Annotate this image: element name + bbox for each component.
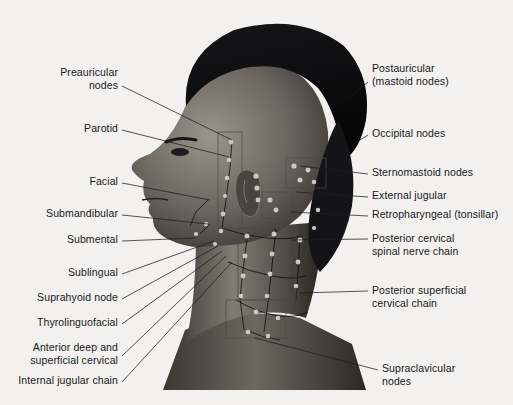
label-line: Retropharyngeal (tonsillar) [372,208,498,221]
label-anterior-deep-superficial-cervical: Anterior deep andsuperficial cervical [0,341,118,366]
label-line: Submandibular [0,207,118,220]
label-supraclavicular-nodes: Supraclavicularnodes [382,362,455,387]
label-line: Posterior cervical [372,232,458,245]
label-line: Submental [0,233,118,246]
label-facial: Facial [0,175,118,188]
label-postauricular-mastoid-nodes: Postauricular(mastoid nodes) [372,62,449,87]
label-line: Suprahyoid node [0,291,118,304]
label-line: Preauricular [0,66,118,79]
label-line: nodes [382,375,455,388]
label-thyrolinguofacial: Thyrolinguofacial [0,316,118,329]
label-line: cervical chain [372,297,466,310]
head-profile-photograph [132,24,367,390]
label-retropharyngeal-tonsillar: Retropharyngeal (tonsillar) [372,208,498,221]
label-sternomastoid-nodes: Sternomastoid nodes [372,166,473,179]
label-occipital-nodes: Occipital nodes [372,127,445,140]
label-submandibular: Submandibular [0,207,118,220]
label-line: Postauricular [372,62,449,75]
label-line: Internal jugular chain [0,374,118,387]
label-line: Supraclavicular [382,362,455,375]
label-line: Anterior deep and [0,341,118,354]
label-posterior-cervical-spinal-nerve-chain: Posterior cervicalspinal nerve chain [372,232,458,257]
label-internal-jugular-chain: Internal jugular chain [0,374,118,387]
label-posterior-superficial-cervical-chain: Posterior superficialcervical chain [372,284,466,309]
label-line: Parotid [0,122,118,135]
label-line: superficial cervical [0,354,118,367]
label-submental: Submental [0,233,118,246]
label-preauricular-nodes: Preauricularnodes [0,66,118,91]
label-line: Thyrolinguofacial [0,316,118,329]
label-sublingual: Sublingual [0,266,118,279]
label-line: Sternomastoid nodes [372,166,473,179]
eye [171,148,189,156]
label-line: spinal nerve chain [372,245,458,258]
label-line: (mastoid nodes) [372,75,449,88]
label-line: Sublingual [0,266,118,279]
label-line: nodes [0,79,118,92]
label-line: External jugular [372,189,447,202]
label-line: Facial [0,175,118,188]
label-external-jugular: External jugular [372,189,447,202]
label-line: Occipital nodes [372,127,445,140]
lymph-node-anatomy-figure: PreauricularnodesParotidFacialSubmandibu… [0,0,513,405]
label-suprahyoid-node: Suprahyoid node [0,291,118,304]
label-line: Posterior superficial [372,284,466,297]
label-parotid: Parotid [0,122,118,135]
